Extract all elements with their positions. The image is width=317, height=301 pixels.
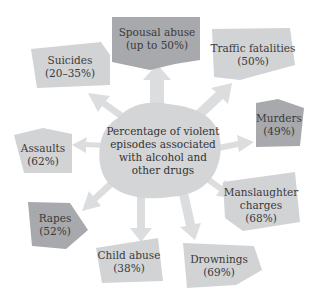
- violence-alcohol-diagram: Percentage of violent episodes associate…: [0, 0, 317, 301]
- center-line-1: Percentage of violent: [106, 125, 219, 138]
- rapes-value: (52%): [39, 225, 72, 238]
- murders-name: Murders: [256, 112, 302, 125]
- child-abuse-name: Child abuse: [98, 249, 161, 262]
- manslaughter-value: (68%): [224, 212, 298, 225]
- traffic-fatalities-name: Traffic fatalities: [211, 42, 296, 55]
- suicides-name: Suicides: [45, 54, 95, 67]
- label-drownings: Drownings (69%): [190, 253, 248, 279]
- assaults-value: (62%): [21, 155, 65, 168]
- murders-value: (49%): [256, 125, 302, 138]
- spousal-abuse-name: Spousal abuse: [119, 26, 196, 39]
- suicides-value: (20–35%): [45, 67, 95, 80]
- label-manslaughter-charges: Manslaughter charges (68%): [224, 186, 298, 225]
- arrow-drownings: [178, 188, 201, 240]
- label-spousal-abuse: Spousal abuse (up to 50%): [119, 26, 196, 52]
- label-suicides: Suicides (20–35%): [45, 54, 95, 80]
- label-murders: Murders (49%): [256, 112, 302, 138]
- label-assaults: Assaults (62%): [21, 142, 65, 168]
- label-traffic-fatalities: Traffic fatalities (50%): [211, 42, 296, 68]
- drownings-name: Drownings: [190, 253, 248, 266]
- center-line-4: other drugs: [106, 164, 219, 177]
- child-abuse-value: (38%): [98, 262, 161, 275]
- label-child-abuse: Child abuse (38%): [98, 249, 161, 275]
- center-line-3: with alcohol and: [106, 151, 219, 164]
- assaults-name: Assaults: [21, 142, 65, 155]
- rapes-name: Rapes: [39, 212, 72, 225]
- arrow-child-abuse: [130, 195, 152, 242]
- center-line-2: episodes associated: [106, 138, 219, 151]
- manslaughter-name-line-1: Manslaughter: [224, 186, 298, 199]
- arrow-murders: [218, 135, 254, 152]
- center-label: Percentage of violent episodes associate…: [106, 125, 219, 177]
- drownings-value: (69%): [190, 266, 248, 279]
- traffic-fatalities-value: (50%): [211, 55, 296, 68]
- manslaughter-name-line-2: charges: [224, 199, 298, 212]
- spousal-abuse-value: (up to 50%): [119, 39, 196, 52]
- label-rapes: Rapes (52%): [39, 212, 72, 238]
